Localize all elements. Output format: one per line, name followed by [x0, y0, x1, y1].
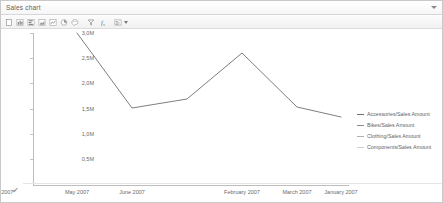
- legend-options-group[interactable]: [113, 17, 128, 27]
- legend-swatch-icon: [357, 114, 364, 115]
- x-axis-tick-label: June 2007: [119, 189, 145, 195]
- chart-area: 3,0M 2,5M 2,0M 1,5M 1,0M 0,5M May 2007 J…: [1, 29, 442, 202]
- y-axis-tick-mark: [30, 134, 33, 135]
- y-axis-line: [33, 33, 34, 185]
- checkmark-icon[interactable]: ✔: [12, 187, 19, 195]
- new-icon[interactable]: [4, 17, 14, 27]
- chevron-down-icon-legend[interactable]: [124, 21, 128, 24]
- legend-item-label: Accessories/Sales Amount: [367, 111, 430, 117]
- legend-item-label: Components/Sales Amount: [367, 144, 431, 150]
- x-axis-line: [33, 185, 349, 186]
- status-divider: [23, 183, 442, 184]
- y-axis-tick-mark: [30, 33, 33, 34]
- x-axis-tick-label: March 2007: [282, 189, 311, 195]
- legend-item[interactable]: Bikes/Sales Amount: [357, 122, 443, 128]
- title-bar: Sales chart: [1, 1, 442, 15]
- legend-item[interactable]: Accessories/Sales Amount: [357, 111, 443, 117]
- chart-designer-panel: Sales chart: [0, 0, 443, 203]
- toolbar-separator: [81, 17, 85, 27]
- chart-legend: Accessories/Sales Amount Bikes/Sales Amo…: [357, 111, 443, 150]
- y-axis-tick-label: 2,5M: [68, 55, 94, 61]
- legend-swatch-icon: [357, 125, 364, 126]
- y-axis-tick-label: 1,0M: [68, 131, 94, 137]
- legend-item-label: Bikes/Sales Amount: [367, 122, 414, 128]
- filter-icon[interactable]: [86, 17, 96, 27]
- y-axis-tick-label: 0,5M: [68, 156, 94, 162]
- legend-item[interactable]: Clothing/Sales Amount: [357, 133, 443, 139]
- chart-column-icon[interactable]: [15, 17, 25, 27]
- x-axis-tick-label: January 2007: [324, 189, 357, 195]
- legend-swatch-icon: [357, 147, 364, 148]
- chart-bar-icon[interactable]: [26, 17, 36, 27]
- legend-swatch-icon: [357, 136, 364, 137]
- svg-text:x: x: [103, 22, 105, 26]
- toolbar-separator-2: [108, 17, 112, 27]
- legend-icon[interactable]: [113, 17, 123, 27]
- x-axis-tick-label: February 2007: [224, 189, 260, 195]
- legend-item-label: Clothing/Sales Amount: [367, 133, 421, 139]
- x-axis-tick-label: May 2007: [65, 189, 89, 195]
- chevron-down-icon[interactable]: [431, 6, 437, 9]
- function-icon[interactable]: f x: [97, 17, 107, 27]
- y-axis-tick-mark: [30, 109, 33, 110]
- chart-toolbar: f x: [1, 16, 442, 29]
- y-axis-tick-label: 2,0M: [68, 80, 94, 86]
- y-axis-tick-label: 1,5M: [68, 106, 94, 112]
- chart-area-icon[interactable]: [37, 17, 47, 27]
- y-axis-tick-mark: [30, 83, 33, 84]
- chart-pie-icon[interactable]: [59, 17, 69, 27]
- y-axis-tick-mark: [30, 159, 33, 160]
- palette-icon[interactable]: [70, 17, 80, 27]
- legend-item[interactable]: Components/Sales Amount: [357, 144, 443, 150]
- chart-line-icon[interactable]: [48, 17, 58, 27]
- page-title: Sales chart: [1, 4, 41, 11]
- y-axis-tick-label: 3,0M: [68, 30, 94, 36]
- y-axis-tick-mark: [30, 58, 33, 59]
